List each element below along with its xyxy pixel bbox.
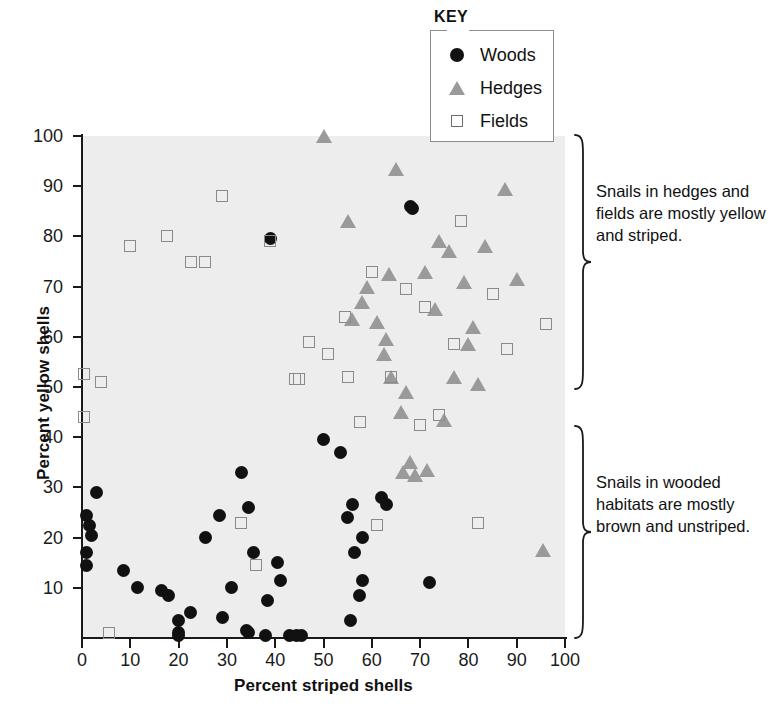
data-point-fields	[366, 266, 378, 278]
data-point-woods	[80, 559, 93, 572]
data-point-fields	[95, 376, 107, 388]
y-tick-label: 100	[33, 127, 63, 145]
legend-item-label: Woods	[480, 45, 536, 66]
data-point-hedges	[465, 320, 481, 334]
data-point-fields	[78, 411, 90, 423]
data-point-woods	[172, 614, 185, 627]
data-point-woods	[199, 531, 212, 544]
x-tick-mark	[516, 639, 518, 648]
data-point-hedges	[398, 385, 414, 399]
snail-shell-scatter-figure: 102030405060708090100 010203040506070809…	[0, 0, 775, 710]
legend-item-woods[interactable]: Woods	[444, 40, 536, 70]
data-point-fields	[419, 301, 431, 313]
legend-title: KEY	[434, 8, 468, 26]
y-tick-mark	[73, 235, 82, 237]
data-point-woods	[235, 466, 248, 479]
filled-circle-icon	[444, 48, 470, 62]
data-point-hedges	[359, 280, 375, 294]
data-point-fields	[501, 343, 513, 355]
data-point-fields	[371, 519, 383, 531]
brace-top-icon	[572, 133, 594, 391]
data-point-fields	[216, 190, 228, 202]
data-point-fields	[199, 256, 211, 268]
open-square-icon	[444, 115, 470, 127]
legend-item-fields[interactable]: Fields	[444, 106, 528, 136]
data-point-fields	[161, 230, 173, 242]
y-tick-mark	[73, 135, 82, 137]
data-point-woods	[356, 531, 369, 544]
data-point-fields	[339, 311, 351, 323]
data-point-hedges	[369, 315, 385, 329]
data-point-fields	[78, 368, 90, 380]
legend-item-label: Fields	[480, 111, 528, 132]
data-point-woods	[334, 446, 347, 459]
data-point-fields	[354, 416, 366, 428]
y-tick-mark	[73, 537, 82, 539]
x-axis-title: Percent striped shells	[82, 676, 565, 696]
data-point-fields	[414, 419, 426, 431]
data-point-fields	[540, 318, 552, 330]
x-tick-mark	[371, 639, 373, 648]
x-tick-mark	[129, 639, 131, 648]
data-point-fields	[264, 235, 276, 247]
data-point-woods	[117, 564, 130, 577]
data-point-hedges	[354, 295, 370, 309]
data-point-hedges	[456, 275, 472, 289]
data-point-hedges	[477, 239, 493, 253]
data-point-fields	[250, 559, 262, 571]
data-point-fields	[342, 371, 354, 383]
data-point-hedges	[470, 377, 486, 391]
data-point-woods	[213, 509, 226, 522]
data-point-hedges	[316, 129, 332, 143]
x-tick-mark	[564, 639, 566, 648]
y-tick-mark	[73, 286, 82, 288]
data-point-fields	[385, 371, 397, 383]
data-point-woods	[85, 529, 98, 542]
y-tick-mark	[73, 336, 82, 338]
y-tick-mark	[73, 587, 82, 589]
data-point-fields	[303, 336, 315, 348]
legend-item-hedges[interactable]: Hedges	[444, 73, 542, 103]
data-point-fields	[487, 288, 499, 300]
data-point-woods	[242, 501, 255, 514]
x-tick-mark	[274, 639, 276, 648]
data-point-fields	[124, 240, 136, 252]
plot-area	[82, 136, 565, 638]
data-point-woods	[172, 629, 185, 642]
data-point-hedges	[446, 370, 462, 384]
data-point-woods	[216, 611, 229, 624]
y-axis-title: Percent yellow shells	[34, 183, 54, 603]
x-tick-mark	[323, 639, 325, 648]
data-point-fields	[103, 627, 115, 639]
legend-item-label: Hedges	[480, 78, 542, 99]
annotation-hedges-fields: Snails in hedges and fields are mostly y…	[596, 181, 775, 247]
data-point-woods	[353, 589, 366, 602]
data-point-woods	[295, 629, 308, 642]
data-point-hedges	[441, 244, 457, 258]
data-point-hedges	[381, 267, 397, 281]
y-tick-mark	[73, 386, 82, 388]
x-tick-label: 100	[535, 651, 595, 669]
data-point-woods	[90, 486, 103, 499]
annotation-woods: Snails in wooded habitats are mostly bro…	[596, 472, 775, 538]
data-point-woods	[274, 574, 287, 587]
data-point-hedges	[376, 347, 392, 361]
data-point-woods	[259, 629, 272, 642]
data-point-fields	[185, 256, 197, 268]
x-tick-mark	[419, 639, 421, 648]
y-tick-mark	[73, 486, 82, 488]
data-point-hedges	[417, 265, 433, 279]
y-tick-mark	[73, 436, 82, 438]
data-point-hedges	[378, 332, 394, 346]
data-point-hedges	[497, 182, 513, 196]
data-point-fields	[400, 283, 412, 295]
data-point-fields	[455, 215, 467, 227]
data-point-hedges	[419, 463, 435, 477]
x-tick-mark	[467, 639, 469, 648]
data-point-hedges	[509, 272, 525, 286]
x-tick-mark	[226, 639, 228, 648]
data-point-hedges	[535, 543, 551, 557]
gray-triangle-icon	[444, 81, 470, 95]
data-point-hedges	[340, 214, 356, 228]
data-point-hedges	[388, 162, 404, 176]
